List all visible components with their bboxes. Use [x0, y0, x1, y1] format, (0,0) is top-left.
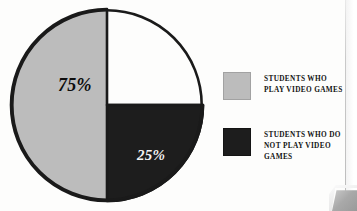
pie-label-75-percent: 75% — [58, 75, 92, 96]
legend-item-not-play-video-games: STUDENTS WHO DO NOT PLAY VIDEO GAMES — [223, 128, 348, 163]
legend-swatch-icon-not-play-video-games — [223, 128, 251, 156]
legend-item-play-video-games: STUDENTS WHO PLAY VIDEO GAMES — [223, 72, 348, 100]
legend: STUDENTS WHO PLAY VIDEO GAMES STUDENTS W… — [223, 72, 348, 191]
legend-swatch-icon-play-video-games — [223, 72, 251, 100]
pie-chart: 75% 25% — [9, 7, 205, 211]
legend-label-play-video-games: STUDENTS WHO PLAY VIDEO GAMES — [264, 72, 348, 95]
pie-chart-figure: 75% 25% STUDENTS WHO PLAY VIDEO GAMES ST… — [0, 0, 357, 211]
pie-svg — [9, 7, 205, 203]
legend-label-not-play-video-games: STUDENTS WHO DO NOT PLAY VIDEO GAMES — [264, 128, 348, 163]
pie-label-25-percent: 25% — [137, 147, 165, 164]
